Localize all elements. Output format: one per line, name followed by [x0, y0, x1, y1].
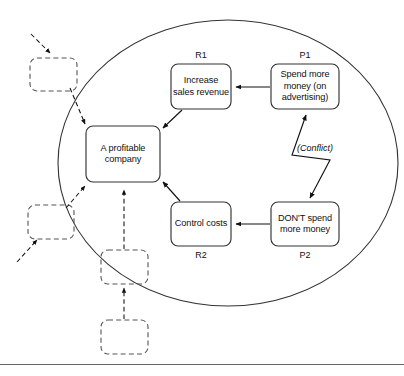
dashed-arrow-external-to-top-left: [31, 34, 50, 53]
node-r2-tag: R2: [171, 250, 231, 260]
node-r1-box: [171, 64, 231, 109]
placeholder-box-lower-mid: [101, 250, 148, 284]
node-p1-box: [271, 64, 339, 109]
node-p1-tag: P1: [271, 50, 339, 60]
dashed-arrow-mid-left-to-objective: [66, 186, 85, 208]
dashed-arrow-external-to-mid-left: [17, 240, 37, 262]
node-r2-box: [171, 202, 231, 246]
node-p2-box: [271, 202, 339, 246]
placeholder-box-bottom: [101, 320, 148, 354]
arrow-r1-to-objective: [163, 110, 182, 128]
arrow-r2-to-objective: [163, 182, 180, 201]
placeholder-box-top-left: [30, 58, 77, 91]
diagram-canvas: A profitable company Increase sales reve…: [0, 0, 404, 376]
node-objective-box: [86, 126, 160, 182]
conflict-label: (Conflict): [297, 143, 333, 153]
arrow-conflict-zigzag: [292, 115, 330, 198]
node-r1-tag: R1: [171, 50, 231, 60]
node-p2-tag: P2: [271, 250, 339, 260]
